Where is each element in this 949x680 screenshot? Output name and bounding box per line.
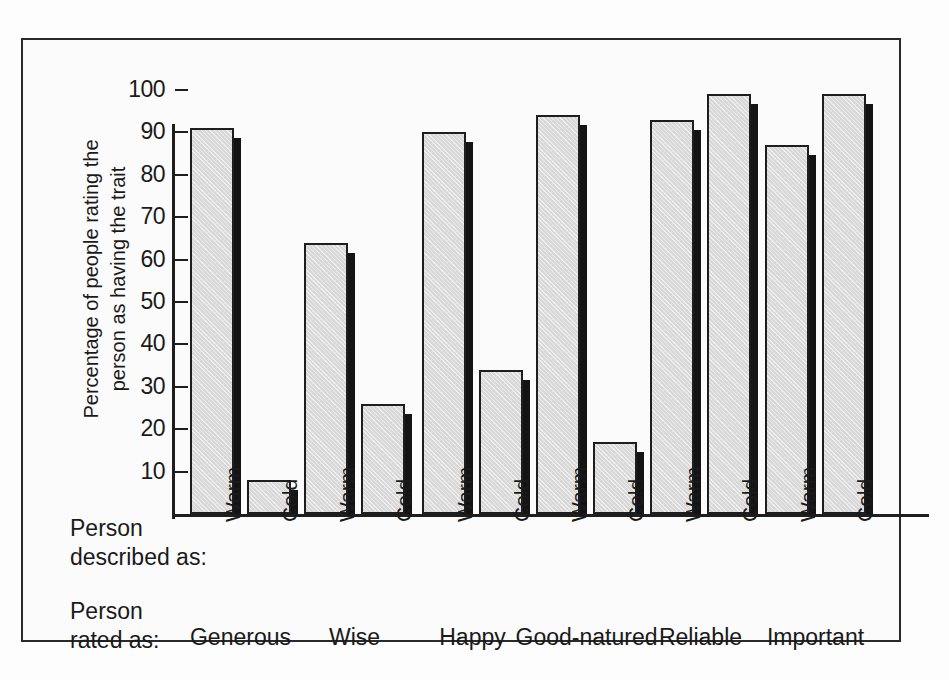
condition-label-reliable-warm: Warm [682, 467, 703, 522]
condition-label-wise-cold: Cold [393, 479, 414, 522]
condition-label-important-warm: Warm [797, 467, 818, 522]
condition-label-wise-warm: Warm [336, 467, 357, 522]
y-tick-70 [175, 216, 188, 218]
y-tick-60 [175, 259, 188, 261]
y-axis-title: Percentage of people rating the person a… [78, 79, 132, 479]
bar-reliable-warm[interactable] [650, 120, 694, 514]
y-axis-title-line1: Percentage of people rating the [78, 79, 105, 479]
bar-important-cold[interactable] [822, 94, 866, 514]
bar-important-warm[interactable] [765, 145, 809, 514]
y-tick-90 [175, 131, 188, 133]
caption-rated-line1: Person [70, 597, 160, 626]
y-axis-line [172, 124, 175, 519]
y-tick-20 [175, 428, 188, 430]
y-axis-title-line2: person as having the trait [105, 79, 132, 479]
condition-label-reliable-cold: Cold [739, 479, 760, 522]
condition-label-happy-cold: Cold [511, 479, 532, 522]
bar-happy-warm[interactable] [422, 132, 466, 514]
condition-label-good-natured-cold: Cold [625, 479, 646, 522]
trait-label-important: Important [726, 626, 906, 649]
figure-canvas: 102030405060708090100 Percentage of peop… [0, 0, 949, 680]
bar-reliable-cold[interactable] [707, 94, 751, 514]
caption-described-line2: described as: [70, 543, 207, 572]
condition-label-important-cold: Cold [854, 479, 875, 522]
y-tick-50 [175, 301, 188, 303]
y-tick-30 [175, 386, 188, 388]
y-tick-40 [175, 343, 188, 345]
y-tick-10 [175, 471, 188, 473]
condition-label-generous-cold: Cold [279, 479, 300, 522]
y-tick-100 [175, 89, 188, 91]
condition-label-generous-warm: Warm [222, 467, 243, 522]
caption-person-described-as: Person described as: [70, 514, 207, 572]
bar-generous-warm[interactable] [190, 128, 234, 514]
y-tick-80 [175, 174, 188, 176]
condition-label-happy-warm: Warm [454, 467, 475, 522]
caption-person-rated-as: Person rated as: [70, 597, 160, 655]
caption-described-line1: Person [70, 514, 207, 543]
condition-label-good-natured-warm: Warm [568, 467, 589, 522]
chart-frame: 102030405060708090100 Percentage of peop… [21, 38, 901, 642]
bar-good-natured-warm[interactable] [536, 115, 580, 514]
caption-rated-line2: rated as: [70, 626, 160, 655]
